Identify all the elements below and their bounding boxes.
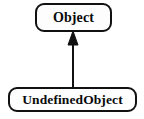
class-name-label: UndefinedObject bbox=[22, 93, 123, 107]
class-name-label: Object bbox=[53, 11, 94, 25]
arrowhead-icon bbox=[68, 31, 78, 45]
class-box-undefinedobject[interactable]: UndefinedObject bbox=[8, 87, 137, 112]
uml-class-diagram: Object UndefinedObject bbox=[0, 0, 144, 119]
class-box-object[interactable]: Object bbox=[35, 3, 112, 32]
